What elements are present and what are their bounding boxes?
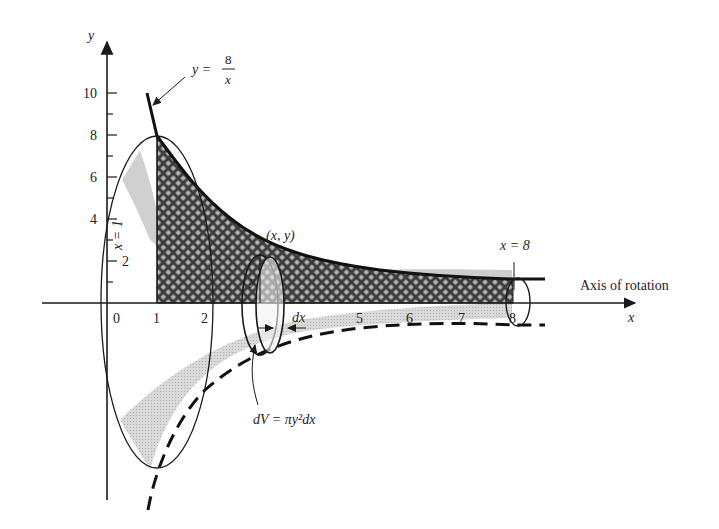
x-axis-label: x [627, 310, 635, 325]
solid-of-revolution-diagram: y 10 8 6 4 2 0 1 2 5 6 7 8 x Axis of rot… [0, 0, 719, 529]
x-tick-5: 5 [356, 311, 363, 326]
rotation-axis-label: Axis of rotation [580, 278, 669, 293]
x-equals-1-label: x = 1 [110, 220, 125, 251]
x-equals-8-label: x = 8 [499, 238, 530, 253]
y-tick-2: 2 [122, 254, 129, 269]
volume-element-label: dV = πy²dx [253, 412, 316, 427]
curve-label-numerator: 8 [225, 52, 232, 67]
x-tick-0: 0 [113, 311, 120, 326]
curve-label-lhs: y = [190, 62, 211, 77]
thickness-label: dx [292, 310, 306, 325]
x-tick-1: 1 [153, 311, 160, 326]
x-tick-2: 2 [201, 311, 208, 326]
y-tick-6: 6 [90, 170, 97, 185]
point-label: (x, y) [266, 228, 295, 244]
x-tick-6: 6 [406, 311, 413, 326]
upper-surface-shade [122, 150, 162, 250]
reflected-curve-dashed [148, 323, 545, 510]
y-tick-8: 8 [90, 128, 97, 143]
lower-surface-shade [120, 303, 512, 470]
y-ticks [107, 93, 117, 282]
radius-label: y [248, 273, 256, 288]
x-tick-8: 8 [509, 311, 516, 326]
curve-label-pointer [153, 77, 185, 105]
y-tick-10: 10 [83, 86, 97, 101]
y-tick-4: 4 [90, 212, 97, 227]
curve-label-denominator: x [224, 72, 231, 87]
y-axis-label: y [86, 28, 95, 43]
x-tick-7: 7 [458, 311, 465, 326]
